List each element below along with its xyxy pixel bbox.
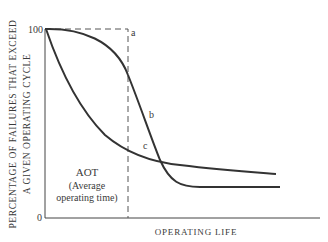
y-tick-100: 100 bbox=[28, 24, 43, 35]
aot-line1: (Average bbox=[69, 180, 106, 192]
label-c: c bbox=[143, 140, 148, 151]
chart-svg: PERCENTAGE OF FAILURES THAT EXCEED A GIV… bbox=[0, 0, 328, 242]
aot-title: AOT bbox=[76, 166, 99, 178]
aot-line2: operating time) bbox=[56, 192, 117, 204]
y-tick-0: 0 bbox=[37, 212, 42, 223]
x-axis-label: OPERATING LIFE bbox=[155, 227, 237, 237]
label-b: b bbox=[149, 109, 154, 120]
y-axis-label-line2: A GIVEN OPERATING CYCLE bbox=[22, 54, 32, 195]
y-axis-label-line1: PERCENTAGE OF FAILURES THAT EXCEED bbox=[8, 19, 18, 228]
curve-c bbox=[46, 29, 276, 174]
label-a: a bbox=[131, 27, 136, 38]
